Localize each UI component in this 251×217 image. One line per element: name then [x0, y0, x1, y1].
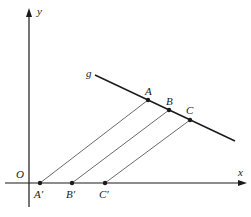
- point-c: [188, 118, 192, 122]
- projection-lines: [40, 100, 190, 183]
- point-c-label: C: [186, 104, 194, 116]
- point-b-label: B: [166, 95, 173, 107]
- point-c-prime: [103, 181, 107, 185]
- projection-line-a: [40, 100, 148, 183]
- line-g: [95, 75, 235, 141]
- diagram-canvas: y x O g A B C A′ B′ C′: [0, 0, 251, 217]
- point-b-prime: [70, 181, 74, 185]
- point-c-prime-label: C′: [99, 188, 109, 200]
- x-axis-label: x: [237, 166, 243, 178]
- point-b: [167, 108, 171, 112]
- point-a-label: A: [144, 85, 152, 97]
- y-axis-label: y: [36, 5, 42, 17]
- y-axis-arrow-icon: [26, 8, 32, 17]
- line-g-label: g: [86, 67, 92, 79]
- origin-label: O: [16, 168, 24, 180]
- x-axis-arrow-icon: [238, 180, 247, 186]
- projection-line-c: [105, 120, 190, 183]
- point-a-prime: [38, 181, 42, 185]
- point-a: [146, 98, 150, 102]
- point-b-prime-label: B′: [66, 188, 76, 200]
- point-a-prime-label: A′: [33, 188, 44, 200]
- y-axis: [26, 8, 32, 207]
